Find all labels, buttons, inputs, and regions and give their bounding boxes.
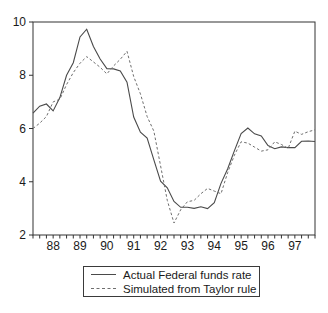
x-axis-year-label: 92 — [154, 239, 168, 253]
y-axis-tick-label: 6 — [19, 122, 26, 136]
x-axis-year-label: 94 — [208, 239, 222, 253]
y-axis-tick-label: 4 — [19, 175, 26, 189]
plot-svg: 24681088899091929394959697 — [0, 0, 328, 260]
legend-box: Actual Federal funds rate Simulated from… — [83, 266, 260, 297]
x-axis-year-label: 96 — [261, 239, 275, 253]
x-axis-year-label: 93 — [181, 239, 195, 253]
legend-label-actual: Actual Federal funds rate — [123, 268, 252, 282]
x-axis-year-label: 97 — [288, 239, 302, 253]
actual-federal-funds-rate-line — [33, 29, 315, 208]
x-axis-year-label: 89 — [73, 239, 87, 253]
x-axis-year-label: 88 — [46, 239, 60, 253]
y-axis-tick-label: 8 — [19, 68, 26, 82]
x-axis-year-label: 95 — [234, 239, 248, 253]
legend-item-actual: Actual Federal funds rate — [91, 268, 259, 282]
x-axis-year-label: 90 — [100, 239, 114, 253]
dashed-line-icon — [91, 288, 116, 289]
taylor-rule-simulated-line — [33, 51, 315, 223]
taylor-rule-chart-figure: 24681088899091929394959697 Actual Federa… — [0, 0, 328, 313]
legend-item-simulated: Simulated from Taylor rule — [91, 282, 259, 296]
x-axis-year-label: 91 — [127, 239, 141, 253]
solid-line-icon — [91, 274, 116, 275]
y-axis-tick-label: 2 — [19, 228, 26, 242]
legend-label-simulated: Simulated from Taylor rule — [123, 282, 256, 296]
y-axis-tick-label: 10 — [13, 15, 27, 29]
